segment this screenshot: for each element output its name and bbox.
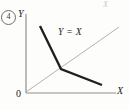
diagonal-equation-label: Y = X — [58, 28, 82, 38]
y-axis-label: Y — [18, 9, 24, 19]
figure-container: Y X 0 Y = X 4 X — [0, 0, 129, 110]
item-number-badge: 4 — [1, 10, 16, 25]
corner-cutoff-mark: X — [103, 0, 108, 9]
origin-label: 0 — [16, 89, 21, 99]
x-axis-label: X — [117, 86, 123, 96]
